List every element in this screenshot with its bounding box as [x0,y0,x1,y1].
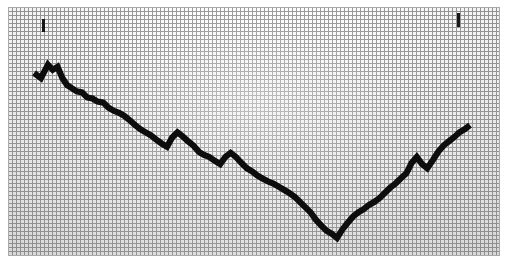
screenshot-root [0,0,509,268]
right-peak-tick [457,13,460,27]
line-series-svg [8,7,500,256]
line-series-path [34,65,470,238]
left-peak-tick [42,19,45,32]
graph-paper-plot-area [8,7,500,256]
